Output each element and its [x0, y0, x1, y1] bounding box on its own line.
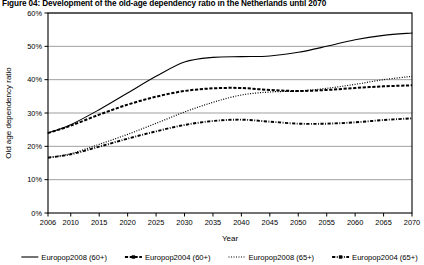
y-tick-label: 50%	[27, 42, 42, 51]
x-tick-label: 2060	[347, 218, 363, 227]
x-tick-label: 2010	[63, 218, 79, 227]
x-tick-label: 2065	[375, 218, 391, 227]
x-tick-label: 2055	[318, 218, 334, 227]
y-tick-label: 60%	[27, 9, 42, 18]
x-tick-label: 2045	[262, 218, 278, 227]
legend-label: Europop2008 (60+)	[41, 253, 107, 262]
y-tick-label: 30%	[27, 109, 42, 118]
x-tick-label: 2025	[148, 218, 164, 227]
legend-label: Europop2004 (65+)	[352, 253, 418, 262]
x-tick-label: 2070	[404, 218, 420, 227]
series-1	[48, 33, 412, 133]
y-tick-label: 0%	[31, 209, 42, 218]
y-tick-label: 40%	[27, 75, 42, 84]
line-chart: 60%50%40%30%20%10%0% 2006201020152020202…	[0, 0, 424, 265]
series-line	[48, 33, 412, 133]
x-tick-label: 2040	[233, 218, 249, 227]
gridlines-group	[48, 13, 412, 180]
x-tick-label: 2035	[205, 218, 221, 227]
y-axis-title: Old age dependency ratio	[4, 67, 13, 159]
series-2	[48, 85, 412, 133]
x-tick-label: 2020	[119, 218, 135, 227]
legend-label: Europop2008 (65+)	[249, 253, 315, 262]
x-axis-ticks: 2006201020152020202520302035204020452050…	[40, 213, 420, 227]
x-tick-label: 2015	[91, 218, 107, 227]
y-axis-ticks: 60%50%40%30%20%10%0%	[27, 9, 48, 218]
x-axis-title: Year	[222, 234, 239, 243]
legend-item[interactable]: Europop2004 (65+)	[332, 253, 418, 262]
series-line	[48, 85, 412, 133]
legend-item[interactable]: Europop2008 (65+)	[229, 253, 315, 262]
series-line	[48, 118, 412, 157]
y-tick-label: 10%	[27, 175, 42, 184]
data-series-group	[48, 33, 412, 158]
legend-marker	[132, 255, 135, 258]
figure-container: Figure 04: Development of the old-age de…	[0, 0, 424, 265]
legend-item[interactable]: Europop2004 (60+)	[125, 253, 211, 262]
y-tick-label: 20%	[27, 142, 42, 151]
x-tick-label: 2050	[290, 218, 306, 227]
x-tick-label: 2030	[176, 218, 192, 227]
legend-marker	[339, 255, 342, 258]
legend-item[interactable]: Europop2008 (60+)	[21, 253, 107, 262]
series-4	[48, 118, 412, 157]
legend-label: Europop2004 (60+)	[145, 253, 211, 262]
chart-legend: Europop2008 (60+)Europop2004 (60+)Europo…	[21, 253, 418, 262]
x-tick-label: 2006	[40, 218, 56, 227]
